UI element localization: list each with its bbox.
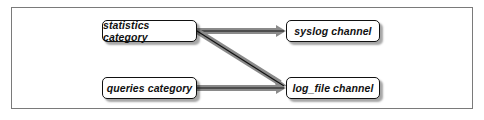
- node-syslog-channel: syslog channel: [286, 20, 380, 42]
- edge-queries-to-log-file: [197, 82, 286, 94]
- node-statistics-category: statistics category: [102, 20, 197, 42]
- edge-statistics-to-log-file: [197, 31, 287, 88]
- edge-statistics-to-syslog: [197, 25, 286, 37]
- node-log-file-channel: log_file channel: [286, 77, 380, 99]
- node-queries-category: queries category: [102, 77, 197, 99]
- edges-layer: [0, 0, 484, 120]
